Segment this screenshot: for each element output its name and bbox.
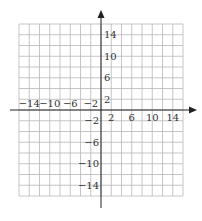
y-tick-label: 10: [104, 51, 117, 62]
x-tick-label: −10: [39, 98, 60, 109]
x-tick-label: 14: [166, 112, 179, 123]
x-tick-label: 6: [129, 112, 135, 123]
y-axis-arrow-icon: [98, 10, 105, 18]
y-tick-label: 6: [104, 72, 110, 83]
x-axis-arrow-icon: [189, 107, 197, 114]
y-tick-label: −14: [78, 180, 99, 191]
y-tick-label: −6: [84, 137, 99, 148]
x-tick-label: 2: [108, 112, 114, 123]
x-tick-label: −6: [63, 98, 78, 109]
y-tick-label: −10: [78, 158, 99, 169]
y-tick-label: 2: [104, 94, 110, 105]
x-tick-label: 10: [146, 112, 159, 123]
y-tick-label: −2: [84, 115, 99, 126]
x-tick-label: −14: [19, 98, 40, 109]
y-tick-label: 14: [104, 29, 117, 40]
coordinate-plane: −14−10−6−2261014 141062−2−6−10−14: [0, 0, 202, 221]
x-tick-label: −2: [83, 98, 98, 109]
